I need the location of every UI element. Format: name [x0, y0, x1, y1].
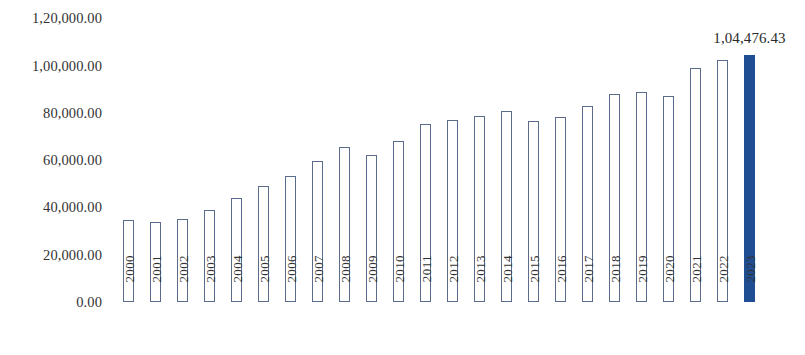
bar-group: 2011 [413, 0, 440, 302]
bar-group: 2018 [602, 0, 629, 302]
bar-2004[interactable] [231, 198, 242, 302]
y-axis-tick-label: 80,000.00 [43, 104, 102, 121]
bar-group: 2010 [386, 0, 413, 302]
bar-2005[interactable] [258, 186, 269, 302]
x-axis-tick-label: 2006 [284, 255, 300, 283]
bar-group: 2002 [170, 0, 197, 302]
bar-group: 2009 [359, 0, 386, 302]
bar-group: 2016 [548, 0, 575, 302]
bar-group: 2020 [656, 0, 683, 302]
bar-group: 2003 [197, 0, 224, 302]
x-axis-tick-label: 2003 [203, 255, 219, 283]
x-axis-tick-label: 2012 [446, 255, 462, 283]
bar-group: 2017 [575, 0, 602, 302]
bar-group: 2007 [305, 0, 332, 302]
x-axis-tick-label: 2013 [473, 255, 489, 283]
bar-2006[interactable] [285, 176, 296, 302]
y-axis-tick-label: 1,00,000.00 [32, 57, 102, 74]
x-axis-tick-label: 2022 [716, 255, 732, 283]
bar-group: 2014 [494, 0, 521, 302]
x-axis-tick-label: 2021 [689, 255, 705, 283]
x-axis-tick-label: 2007 [311, 255, 327, 283]
bar-group: 2006 [278, 0, 305, 302]
bar-group: 2019 [629, 0, 656, 302]
x-axis-tick-label: 2019 [635, 255, 651, 283]
bar-group: 2001 [143, 0, 170, 302]
x-axis-tick-label: 2009 [365, 255, 381, 283]
bar-group: 2005 [251, 0, 278, 302]
x-axis-tick-label: 2004 [230, 255, 246, 283]
x-axis-tick-label: 2018 [608, 255, 624, 283]
x-axis-tick-label: 2017 [581, 255, 597, 283]
x-axis-tick-label: 2010 [392, 255, 408, 283]
bar-group: 2004 [224, 0, 251, 302]
x-axis-tick-label: 2008 [338, 255, 354, 283]
y-axis: 1,20,000.001,00,000.0080,000.0060,000.00… [0, 0, 112, 355]
bar-value-label: 1,04,476.43 [713, 30, 785, 47]
bar-group: 2013 [467, 0, 494, 302]
y-axis-tick-label: 60,000.00 [43, 152, 102, 169]
x-axis-tick-label: 2016 [554, 255, 570, 283]
x-axis-tick-label: 2002 [176, 255, 192, 283]
bar-group: 2012 [440, 0, 467, 302]
y-axis-tick-label: 20,000.00 [43, 246, 102, 263]
bar-group: 2008 [332, 0, 359, 302]
x-axis-tick-label: 2020 [662, 255, 678, 283]
x-axis-tick-label: 2014 [500, 255, 516, 283]
bar-chart: 1,20,000.001,00,000.0080,000.0060,000.00… [0, 0, 805, 355]
x-axis-tick-label: 2000 [122, 255, 138, 283]
x-axis-tick-label: 2011 [419, 255, 435, 282]
x-axis-tick-label: 2001 [149, 255, 165, 283]
bar-group: 2015 [521, 0, 548, 302]
y-axis-tick-label: 1,20,000.00 [32, 10, 102, 27]
x-axis-tick-label: 2023 [743, 255, 759, 283]
y-axis-tick-label: 40,000.00 [43, 199, 102, 216]
y-axis-tick-label: 0.00 [76, 294, 102, 311]
x-axis-tick-label: 2015 [527, 255, 543, 283]
bar-group: 2000 [116, 0, 143, 302]
x-axis-tick-label: 2005 [257, 255, 273, 283]
bar-group: 2021 [683, 0, 710, 302]
plot-area: 2000200120022003200420052006200720082009… [112, 0, 805, 355]
